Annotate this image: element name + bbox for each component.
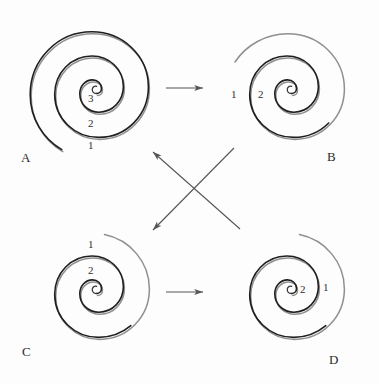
panel-a-turn-3: 3: [88, 92, 94, 104]
panel-a-spiral-dark: [30, 32, 148, 150]
panel-c-turn-2: 2: [88, 264, 94, 276]
panel-d-turn-1: 1: [323, 281, 329, 293]
panel-b-spiral: [235, 34, 344, 140]
panel-label-c: C: [22, 344, 31, 360]
spiral-figure: A B C D 3 2 1 1 2 1 2 2 1: [0, 0, 379, 384]
panel-c-spiral-gray: [56, 235, 150, 340]
panel-c-spiral-core: [92, 286, 96, 293]
panel-b-turn-1: 1: [231, 88, 237, 100]
panel-b-spiral-core: [287, 86, 291, 93]
panel-a-turn-1: 1: [88, 139, 94, 151]
panel-d-spiral: [250, 235, 345, 340]
panel-d-spiral-core: [287, 286, 291, 293]
panel-a-turn-2: 2: [88, 117, 94, 129]
panel-label-b: B: [327, 149, 336, 165]
panel-c-turn-1: 1: [88, 238, 94, 250]
panel-c-spiral: [55, 235, 150, 340]
panel-label-a: A: [21, 150, 31, 166]
panel-b-turn-2: 2: [258, 88, 264, 100]
panel-label-d: D: [329, 352, 339, 368]
panel-d-turn-2: 2: [300, 283, 306, 295]
panel-d-spiral-gray: [251, 235, 345, 340]
spiral-canvas: [0, 0, 379, 384]
arrow-b-to-c: [153, 148, 234, 230]
